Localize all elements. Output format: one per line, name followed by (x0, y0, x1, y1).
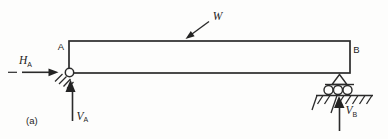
vertical-reaction-label-left: VA (77, 110, 89, 124)
beam-free-body-diagram: A B W HA VA (0, 0, 388, 139)
load-label: W (213, 10, 224, 22)
beam-outline (69, 41, 350, 73)
hatch-stroke (367, 96, 373, 105)
load-arrow-shaft (192, 22, 209, 35)
hatch-stroke (59, 77, 67, 85)
diagram-canvas: A B W HA VA (0, 0, 388, 139)
vertical-reaction-arrow-left (66, 80, 76, 122)
beam-end-label-b: B (353, 44, 359, 55)
hatch-stroke (318, 96, 324, 105)
reaction-subscript: B (353, 111, 358, 118)
roller-circle (324, 86, 333, 95)
hatch-stroke (325, 96, 331, 105)
beam-end-label-a: A (58, 41, 65, 52)
horizontal-reaction-label: HA (18, 54, 32, 68)
vertical-reaction-label-right: VB (346, 104, 358, 118)
hatch-stroke (360, 96, 366, 105)
subfigure-caption: (a) (26, 115, 38, 126)
roller-circle (334, 86, 343, 95)
hatch-stroke (353, 96, 359, 105)
load-arrowhead-icon (186, 31, 195, 39)
pin-circle (65, 68, 73, 76)
reaction-arrowhead-icon (66, 80, 76, 93)
horizontal-reaction-arrow (8, 68, 59, 76)
support-triangle (332, 75, 347, 85)
hatch-stroke (55, 74, 63, 82)
reaction-subscript: A (84, 116, 89, 123)
load-arrow (186, 22, 210, 40)
hatch-stroke (346, 96, 352, 105)
reaction-arrowhead-icon (49, 68, 59, 76)
hatch-stroke (312, 96, 317, 111)
reaction-subscript: A (27, 61, 32, 68)
roller-circle (343, 86, 352, 95)
